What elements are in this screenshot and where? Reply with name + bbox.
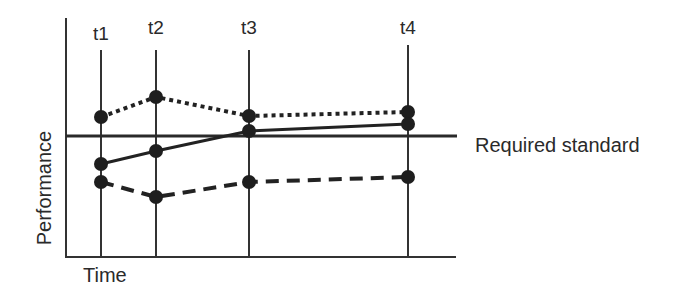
data-point-solid: [242, 124, 256, 138]
data-point-dotted: [401, 105, 415, 119]
time-markers: [101, 45, 408, 257]
tick-label-t4: t4: [400, 17, 416, 39]
data-point-solid: [149, 144, 163, 158]
data-point-dashed: [149, 190, 163, 204]
required-standard-label: Required standard: [475, 134, 640, 157]
data-point-dotted: [149, 90, 163, 104]
data-point-solid: [94, 157, 108, 171]
tick-label-t2: t2: [148, 17, 164, 39]
data-point-dotted: [242, 109, 256, 123]
series-group: [94, 90, 415, 204]
data-point-dashed: [94, 175, 108, 189]
data-point-dashed: [242, 175, 256, 189]
data-point-dotted: [94, 110, 108, 124]
data-point-dashed: [401, 170, 415, 184]
tick-label-t3: t3: [241, 17, 257, 39]
tick-label-t1: t1: [93, 23, 109, 45]
data-point-solid: [401, 117, 415, 131]
x-axis-label: Time: [83, 264, 127, 287]
y-axis-label: Performance: [33, 131, 56, 246]
